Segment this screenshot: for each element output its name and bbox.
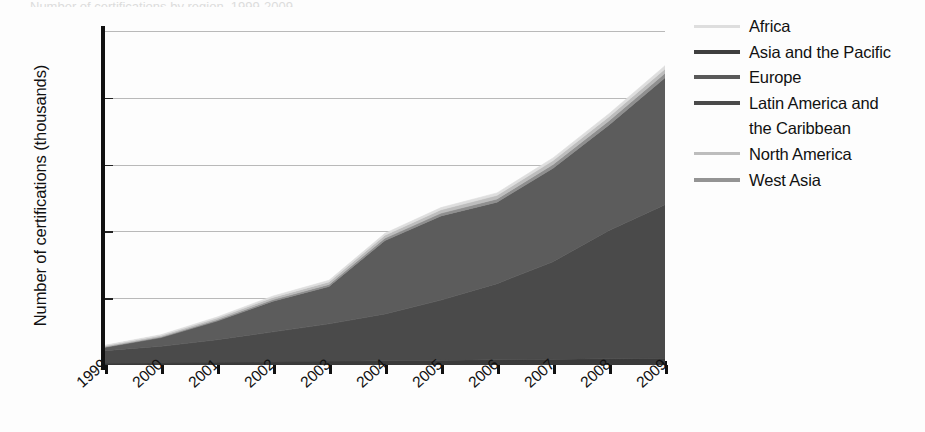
legend-label: Africa bbox=[749, 14, 790, 40]
legend-swatch bbox=[694, 152, 740, 155]
legend-swatch bbox=[694, 25, 740, 28]
legend: AfricaAsia and the PacificEuropeLatin Am… bbox=[694, 14, 924, 193]
y-tick-mark bbox=[105, 98, 113, 100]
legend-label: Latin America and bbox=[749, 91, 879, 117]
legend-item[interactable]: West Asia bbox=[694, 168, 924, 194]
stacked-area-series bbox=[105, 31, 665, 365]
y-tick-mark bbox=[105, 165, 113, 167]
cropped-title-sliver: Number of certifications by region, 1999… bbox=[30, 0, 590, 7]
legend-swatch bbox=[694, 75, 740, 79]
y-tick-mark bbox=[105, 231, 113, 233]
legend-item[interactable]: Africa bbox=[694, 14, 924, 40]
y-tick-mark bbox=[105, 298, 113, 300]
legend-label: Europe bbox=[749, 65, 801, 91]
legend-label-continuation: the Caribbean bbox=[749, 116, 924, 142]
legend-label: North America bbox=[749, 142, 852, 168]
y-axis-title: Number of certifications (thousands) bbox=[31, 16, 50, 376]
legend-swatch bbox=[694, 101, 740, 105]
legend-swatch bbox=[694, 50, 740, 54]
legend-item[interactable]: North America bbox=[694, 142, 924, 168]
legend-item[interactable]: Latin America and bbox=[694, 91, 924, 117]
legend-swatch bbox=[694, 178, 740, 182]
legend-label: West Asia bbox=[749, 168, 821, 194]
y-axis-line bbox=[101, 26, 105, 370]
legend-item[interactable]: Asia and the Pacific bbox=[694, 40, 924, 66]
chart-root: Number of certifications by region, 1999… bbox=[0, 0, 925, 432]
legend-item[interactable]: Europe bbox=[694, 65, 924, 91]
legend-label: Asia and the Pacific bbox=[749, 40, 891, 66]
plot-area bbox=[105, 31, 665, 365]
